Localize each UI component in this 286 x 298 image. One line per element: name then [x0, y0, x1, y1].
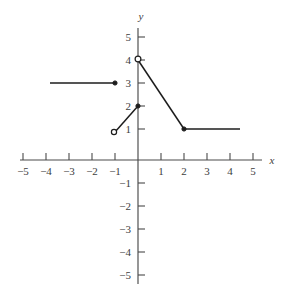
y-label--1: −1 — [119, 177, 131, 189]
y-label--5: −5 — [119, 269, 131, 281]
x-label-3: 3 — [204, 165, 210, 177]
y-label--2: −2 — [119, 200, 131, 212]
y-label-5: 5 — [126, 31, 132, 43]
closed-point-0-2 — [136, 104, 140, 108]
x-label-1: 1 — [158, 165, 164, 177]
x-label-2: 2 — [181, 165, 187, 177]
function-curve-group — [50, 60, 240, 132]
y-label-1: 1 — [126, 123, 132, 135]
y-label-3: 3 — [126, 77, 132, 89]
open-point-0-4 — [135, 56, 141, 62]
axes-group — [20, 28, 262, 284]
x-label--4: −4 — [40, 165, 52, 177]
x-label-4: 4 — [227, 165, 233, 177]
y-tick-labels: 5 4 3 2 1 −1 −2 −3 −4 −5 — [119, 31, 131, 281]
cartesian-plot: −5 −4 −3 −2 −1 1 2 3 4 5 5 4 3 2 1 −1 −2… — [0, 0, 286, 298]
x-axis-label: x — [269, 154, 275, 166]
x-label--2: −2 — [86, 165, 98, 177]
x-label-5: 5 — [250, 165, 256, 177]
closed-point-2-1 — [182, 127, 186, 131]
coordinate-graph-figure: −5 −4 −3 −2 −1 1 2 3 4 5 5 4 3 2 1 −1 −2… — [0, 0, 286, 298]
y-axis-ticks — [138, 37, 145, 275]
y-label--3: −3 — [119, 223, 131, 235]
y-label-2: 2 — [126, 100, 132, 112]
x-label--3: −3 — [63, 165, 75, 177]
closed-point--1-3 — [113, 81, 117, 85]
x-label--1: −1 — [109, 165, 121, 177]
y-label--4: −4 — [119, 246, 131, 258]
x-tick-labels: −5 −4 −3 −2 −1 1 2 3 4 5 — [17, 165, 256, 177]
open-point--1-1 — [111, 129, 116, 134]
x-label--5: −5 — [17, 165, 29, 177]
falling-branch — [138, 60, 184, 129]
y-axis-label: y — [138, 10, 144, 22]
y-label-4: 4 — [126, 54, 132, 66]
